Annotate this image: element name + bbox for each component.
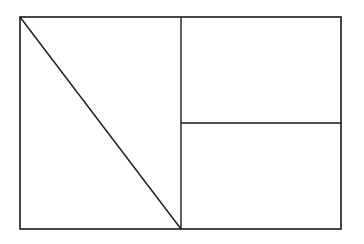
diagonal-line [20,17,181,229]
geometric-diagram [0,0,364,244]
